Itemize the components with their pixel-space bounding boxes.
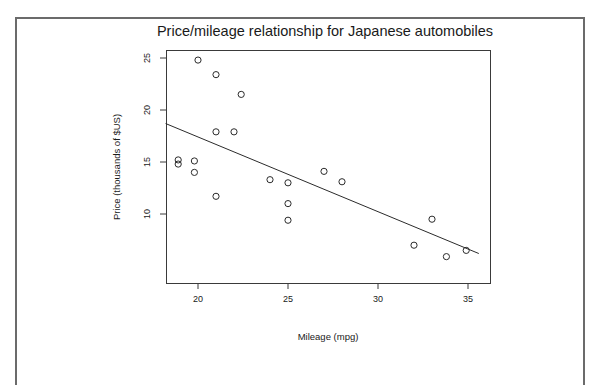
- y-tick-label: 10: [142, 209, 152, 219]
- data-point: [285, 217, 291, 223]
- data-points-group: [175, 57, 469, 260]
- y-axis: 25 20 15 10: [142, 53, 166, 219]
- x-tick-label: 30: [373, 294, 383, 304]
- data-point: [339, 179, 345, 185]
- data-point: [321, 168, 327, 174]
- y-tick-label: 20: [142, 105, 152, 115]
- x-tick-label: 20: [193, 294, 203, 304]
- y-tick-label: 25: [142, 53, 152, 63]
- data-point: [429, 216, 435, 222]
- data-point: [195, 57, 201, 63]
- x-axis-title: Mileage (mpg): [298, 331, 359, 342]
- x-tick-label: 35: [463, 294, 473, 304]
- data-point: [285, 180, 291, 186]
- y-tick-label: 15: [142, 157, 152, 167]
- data-point: [213, 129, 219, 135]
- x-tick-label: 25: [283, 294, 293, 304]
- data-point: [191, 169, 197, 175]
- data-point: [213, 72, 219, 78]
- y-axis-title: Price (thousands of $US): [111, 114, 122, 220]
- data-point: [238, 91, 244, 97]
- regression-line: [166, 124, 479, 254]
- data-point: [411, 242, 417, 248]
- data-point: [285, 201, 291, 207]
- data-point: [175, 161, 181, 167]
- chart-title: Price/mileage relationship for Japanese …: [157, 23, 493, 39]
- plot-area-border: [167, 51, 491, 284]
- data-point: [267, 177, 273, 183]
- data-point: [213, 193, 219, 199]
- data-point: [443, 254, 449, 260]
- x-axis: 20 25 30 35: [193, 283, 473, 304]
- data-point: [191, 158, 197, 164]
- data-point: [231, 129, 237, 135]
